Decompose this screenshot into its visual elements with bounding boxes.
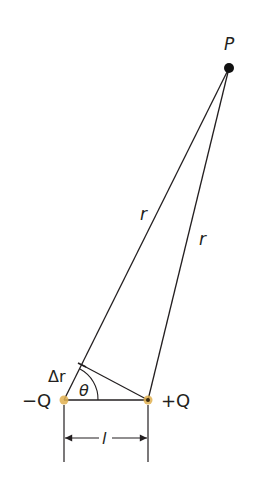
dipole-diagram: P r r Δr θ −Q +Q l xyxy=(0,0,266,486)
delta-r-label: Δr xyxy=(48,367,66,386)
r-left-label: r xyxy=(140,204,148,224)
line-plus-q-to-p xyxy=(148,68,229,400)
minus-charge-dot xyxy=(60,396,69,405)
plus-charge-core xyxy=(146,398,150,402)
separation-label: l xyxy=(102,429,107,448)
perpendicular-line xyxy=(82,365,148,400)
plus-q-label: +Q xyxy=(161,390,190,411)
point-p-dot xyxy=(224,63,234,73)
minus-q-label: −Q xyxy=(22,390,51,411)
theta-label: θ xyxy=(79,381,89,400)
point-p-label: P xyxy=(224,34,235,54)
r-right-label: r xyxy=(199,229,207,249)
